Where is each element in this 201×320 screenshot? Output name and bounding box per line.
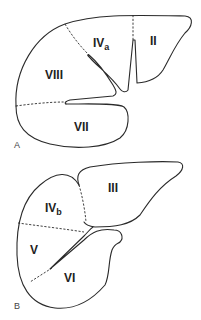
panel-b-outline-segment-iii [78,162,183,227]
panel-b-boundary-ivb-v [18,223,84,232]
panel-a: IVa II VIII VII A [14,15,191,150]
segment-label-vii: VII [74,120,89,134]
panel-label-b: B [14,301,20,311]
segment-label-ii: II [150,34,157,48]
segment-label-v: V [30,243,38,257]
panel-b-boundary-v-vi [30,268,52,282]
panel-label-a: A [14,140,20,150]
segment-label-ivb: IVb [45,201,62,217]
segment-label-iii: III [108,181,118,195]
panel-a-outline-upper [16,15,192,106]
panel-a-boundary-viii-vii [16,102,64,106]
panel-b-boundary-ivb-iii [79,185,86,222]
segment-label-iva: IVa [93,36,110,52]
panel-a-boundary-viii-iva [65,24,89,55]
panel-b-outline-main [17,174,122,308]
segment-label-vi: VI [64,271,75,285]
panel-a-outline-segment-vii [16,104,128,147]
liver-segments-diagram: IVa II VIII VII A IVb III V VI B [0,0,201,320]
panel-b: IVb III V VI B [14,162,183,311]
segment-label-viii: VIII [45,68,63,82]
